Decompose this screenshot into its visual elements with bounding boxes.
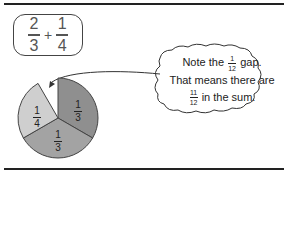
- callout-text: Note the 112 gap. That means there are 1…: [162, 54, 282, 106]
- bottom-rule: [4, 168, 284, 170]
- slice-label-quarter: 14: [33, 106, 41, 129]
- slice-label-third-2: 13: [54, 130, 62, 153]
- slice-label-third-1: 13: [74, 100, 82, 123]
